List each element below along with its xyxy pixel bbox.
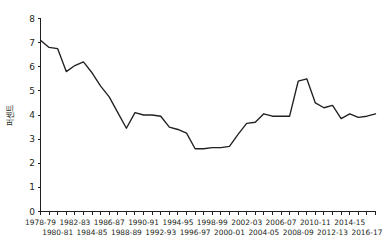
data-series	[41, 40, 376, 149]
x-tick-label: 2014-15	[334, 218, 365, 227]
x-tick-label: 1986-87	[94, 218, 125, 227]
y-axis-title-text: 퍼센트	[5, 105, 15, 126]
x-tick-label: 2012-13	[317, 228, 348, 237]
chart-canvas: 012345678 1978-791980-811982-831984-8519…	[0, 0, 384, 250]
x-tick-label: 1994-95	[162, 218, 193, 227]
x-tick-label: 1984-85	[77, 228, 108, 237]
series-line	[41, 40, 376, 149]
y-tick-label: 4	[29, 110, 35, 120]
x-tick-label: 1982-83	[59, 218, 90, 227]
x-tick-label: 2016-17	[351, 228, 382, 237]
x-tick-label: 1992-93	[145, 228, 176, 237]
x-tick-label: 1996-97	[180, 228, 211, 237]
x-tick-label: 2006-07	[266, 218, 297, 227]
y-axis: 012345678	[29, 14, 40, 217]
x-tick-label: 2010-11	[300, 218, 331, 227]
x-tick-label: 2002-03	[231, 218, 262, 227]
x-tick-label: 2008-09	[283, 228, 314, 237]
y-tick-label: 5	[29, 86, 35, 96]
line-chart: 012345678 1978-791980-811982-831984-8519…	[0, 0, 384, 250]
y-tick-label: 1	[29, 182, 35, 192]
x-tick-label: 2004-05	[248, 228, 279, 237]
x-tick-label: 1990-91	[128, 218, 159, 227]
y-tick-label: 3	[29, 134, 35, 144]
x-axis: 1978-791980-811982-831984-851986-871988-…	[25, 212, 383, 237]
y-tick-label: 7	[29, 38, 35, 48]
y-tick-label: 6	[29, 62, 35, 72]
y-axis-title: 퍼센트	[5, 105, 15, 126]
y-tick-label: 2	[29, 158, 35, 168]
x-tick-label: 1978-79	[25, 218, 56, 227]
x-tick-label: 1980-81	[42, 228, 73, 237]
y-tick-label: 0	[29, 207, 35, 217]
y-tick-label: 8	[29, 14, 35, 24]
x-tick-label: 2000-01	[214, 228, 245, 237]
x-tick-label: 1988-89	[111, 228, 142, 237]
x-tick-label: 1998-99	[197, 218, 228, 227]
